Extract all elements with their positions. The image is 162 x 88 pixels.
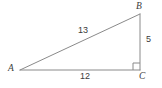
segment-ab-hypotenuse (20, 14, 140, 70)
side-length-label-bc: 5 (146, 35, 151, 44)
side-length-label-ac: 12 (80, 72, 90, 81)
vertex-label-a: A (8, 64, 14, 74)
right-triangle-figure: A B C 13 5 12 (0, 0, 162, 88)
right-angle-marker-icon (133, 63, 140, 70)
vertex-label-c: C (139, 72, 145, 82)
side-length-label-ab: 13 (78, 26, 88, 35)
vertex-label-b: B (136, 2, 142, 12)
